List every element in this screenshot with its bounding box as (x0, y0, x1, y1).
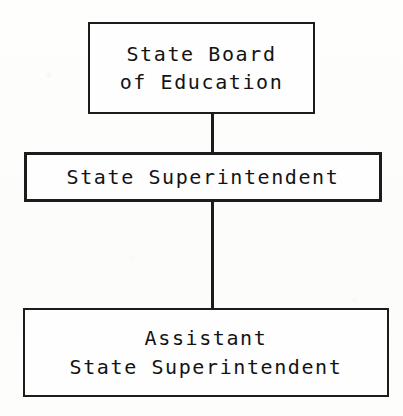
org-node-state-superintendent[interactable]: State Superintendent (24, 152, 382, 202)
org-node-assistant-state-superintendent[interactable]: Assistant State Superintendent (23, 308, 389, 397)
org-node-label-line: of Education (120, 68, 284, 96)
org-node-label-line: Assistant (145, 324, 268, 352)
connector-board-to-superintendent (211, 112, 214, 154)
org-node-label-line: State Superintendent (70, 353, 343, 381)
org-node-label-line: State Board (126, 40, 276, 68)
org-node-label-line: State Superintendent (67, 163, 340, 191)
org-chart-diagram: State Board of Education State Superinte… (0, 0, 403, 416)
org-node-state-board-of-education[interactable]: State Board of Education (88, 22, 315, 114)
connector-superintendent-to-assistant (211, 200, 214, 310)
